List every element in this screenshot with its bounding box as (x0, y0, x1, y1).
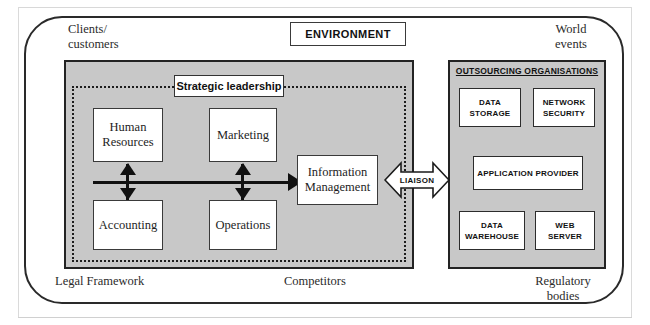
page-rule-top (18, 7, 632, 8)
double-headed-arrow-icon (384, 159, 450, 201)
box-information-management[interactable]: Information Management (297, 155, 378, 205)
label-clients-customers: Clients/ customers (68, 22, 119, 52)
page-edge-left (18, 7, 19, 318)
box-network-security[interactable]: NETWORK SECURITY (533, 88, 595, 127)
page-edge-right (631, 7, 632, 318)
arrowhead-down-accounting (120, 188, 136, 200)
box-human-resources[interactable]: Human Resources (93, 108, 163, 162)
box-application-provider[interactable]: APPLICATION PROVIDER (473, 156, 583, 190)
page-rule-bottom (18, 317, 632, 318)
diagram-canvas: ENVIRONMENT Clients/ customers World eve… (0, 0, 650, 325)
box-accounting[interactable]: Accounting (93, 200, 163, 250)
label-regulatory-bodies: Regulatory bodies (520, 274, 606, 304)
label-competitors: Competitors (284, 274, 346, 289)
label-world-events: World events (536, 22, 606, 52)
arrowhead-up-human-resources (120, 163, 136, 175)
environment-title-box: ENVIRONMENT (290, 22, 406, 46)
box-data-storage[interactable]: DATA STORAGE (459, 88, 521, 127)
label-legal-framework: Legal Framework (55, 274, 144, 289)
box-strategic-leadership[interactable]: Strategic leadership (174, 75, 284, 97)
box-operations[interactable]: Operations (209, 200, 277, 250)
arrowhead-down-operations (235, 188, 251, 200)
box-data-warehouse[interactable]: DATA WAREHOUSE (459, 211, 525, 250)
outsourcing-panel-title: OUTSOURCING ORGANISATIONS (452, 66, 602, 76)
horizontal-connector-line (93, 181, 304, 184)
box-marketing[interactable]: Marketing (209, 108, 277, 162)
arrowhead-up-marketing (235, 163, 251, 175)
box-web-server[interactable]: WEB SERVER (535, 211, 595, 250)
liaison-arrow: LIAISON (384, 159, 450, 201)
